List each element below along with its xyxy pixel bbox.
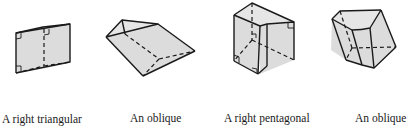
- right-triangular-prism-drawing: [0, 0, 100, 80]
- figure-oblique-triangular-prism: An oblique triangular prism: [95, 0, 205, 129]
- caption-oblique-pentagonal-prism: An oblique pentagonal prism: [355, 86, 406, 129]
- figure-oblique-pentagonal-prism: An oblique pentagonal prism: [300, 0, 408, 129]
- figure-right-triangular-prism: A right triangular prism: [0, 0, 100, 129]
- caption-line: An oblique: [130, 112, 181, 125]
- right-pentagonal-prism-drawing: [200, 0, 310, 85]
- oblique-pentagonal-prism-drawing: [300, 0, 408, 85]
- caption-line: A right pentagonal: [224, 112, 311, 125]
- figure-right-pentagonal-prism: A right pentagonal prism (nonconvex): [200, 0, 310, 129]
- caption-oblique-triangular-prism: An oblique triangular prism: [130, 86, 181, 129]
- caption-right-pentagonal-prism: A right pentagonal prism (nonconvex): [224, 86, 311, 129]
- caption-line: A right triangular: [2, 113, 82, 126]
- caption-line: An oblique: [355, 112, 406, 125]
- oblique-triangular-prism-drawing: [95, 0, 205, 85]
- caption-right-triangular-prism: A right triangular prism: [2, 87, 82, 129]
